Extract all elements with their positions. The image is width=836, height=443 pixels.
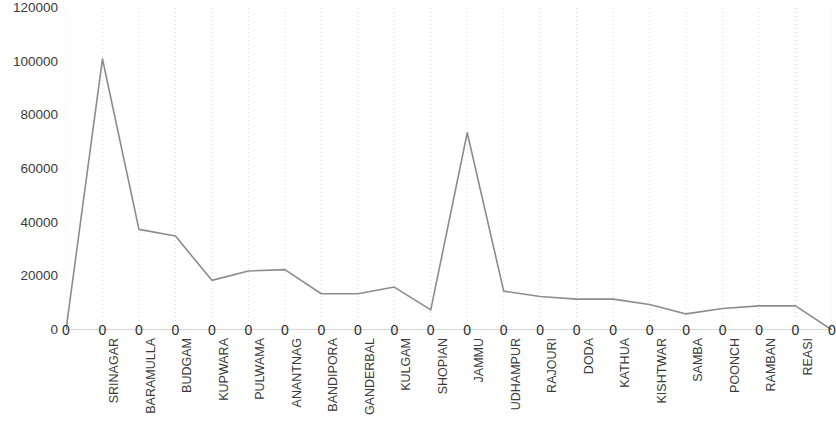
data-point-label: 0 — [427, 323, 435, 337]
data-point-label: 0 — [828, 323, 836, 337]
x-axis-tick-text: BANDIPORA — [327, 338, 340, 412]
x-axis-tick-text: RAJOURI — [546, 338, 559, 393]
data-point-label: 0 — [135, 323, 143, 337]
y-axis: 020000400006000080000100000120000 — [0, 0, 58, 443]
x-axis-tick-text: BUDGAM — [181, 338, 194, 393]
x-axis-tick-label: KUPWARA — [218, 338, 231, 401]
x-axis-tick-text: SAMBA — [692, 338, 705, 382]
x-axis-tick-label: KULGAM — [400, 338, 413, 391]
x-axis-tick-label: ANANTNAG — [291, 338, 304, 407]
data-point-label: 0 — [500, 323, 508, 337]
x-axis-tick-label: KATHUA — [619, 338, 632, 388]
data-point-label: 0 — [172, 323, 180, 337]
x-axis-tick-text: SRINAGAR — [108, 338, 121, 403]
y-axis-tick-label: 60000 — [20, 162, 58, 176]
x-axis-tick-label: GANDERBAL — [364, 338, 377, 415]
x-axis-tick-label: RAMBAN — [765, 338, 778, 391]
data-point-label: 0 — [62, 323, 70, 337]
x-axis-tick-text: KULGAM — [400, 338, 413, 391]
x-axis-tick-label: DODA — [583, 338, 596, 374]
y-axis-tick-label: 100000 — [13, 55, 58, 69]
data-point-label: 0 — [719, 323, 727, 337]
y-axis-tick-label: 80000 — [20, 108, 58, 122]
x-axis-tick-text: KISHTWAR — [656, 338, 669, 404]
data-point-label: 0 — [682, 323, 690, 337]
x-axis-tick-label: BARAMULLA — [145, 338, 158, 414]
x-axis-tick-label: REASI — [802, 338, 815, 376]
x-axis-tick-text: DODA — [583, 338, 596, 374]
x-axis-tick-text: KATHUA — [619, 338, 632, 388]
data-point-label: 0 — [646, 323, 654, 337]
data-point-label: 0 — [208, 323, 216, 337]
x-axis-tick-label: RAJOURI — [546, 338, 559, 393]
x-axis-tick-text: POONCH — [729, 338, 742, 393]
data-point-label: 0 — [463, 323, 471, 337]
x-axis: SRINAGARBARAMULLABUDGAMKUPWARAPULWAMAANA… — [66, 338, 832, 443]
x-axis-tick-text: GANDERBAL — [364, 338, 377, 415]
data-point-label: 0 — [536, 323, 544, 337]
x-axis-tick-text: UDHAMPUR — [510, 338, 523, 410]
x-axis-tick-label: SRINAGAR — [108, 338, 121, 403]
data-point-label: 0 — [755, 323, 763, 337]
data-point-label: 0 — [281, 323, 289, 337]
data-point-label: 0 — [573, 323, 581, 337]
x-axis-tick-text: RAMBAN — [765, 338, 778, 391]
data-point-label: 0 — [244, 323, 252, 337]
data-point-label: 0 — [317, 323, 325, 337]
data-point-label: 0 — [354, 323, 362, 337]
x-axis-tick-label: BANDIPORA — [327, 338, 340, 412]
x-axis-tick-text: JAMMU — [473, 338, 486, 382]
y-axis-tick-label: 20000 — [20, 269, 58, 283]
y-axis-tick-label: 40000 — [20, 216, 58, 230]
x-axis-tick-label: POONCH — [729, 338, 742, 393]
x-axis-tick-label: KISHTWAR — [656, 338, 669, 404]
x-axis-tick-text: PULWAMA — [254, 338, 267, 400]
x-axis-tick-label: SAMBA — [692, 338, 705, 382]
x-axis-tick-label: PULWAMA — [254, 338, 267, 400]
x-axis-tick-label: JAMMU — [473, 338, 486, 382]
x-axis-tick-label: BUDGAM — [181, 338, 194, 393]
x-axis-tick-text: SHOPIAN — [437, 338, 450, 394]
x-axis-tick-label: SHOPIAN — [437, 338, 450, 394]
x-axis-tick-label: UDHAMPUR — [510, 338, 523, 410]
data-point-label: 0 — [792, 323, 800, 337]
x-axis-tick-text: KUPWARA — [218, 338, 231, 401]
y-axis-tick-label: 120000 — [13, 1, 58, 15]
data-point-label: 0 — [609, 323, 617, 337]
y-axis-tick-label: 0 — [50, 323, 58, 337]
data-point-label: 0 — [390, 323, 398, 337]
data-point-label: 0 — [99, 323, 107, 337]
x-axis-tick-text: BARAMULLA — [145, 338, 158, 414]
x-axis-tick-text: REASI — [802, 338, 815, 376]
x-axis-tick-text: ANANTNAG — [291, 338, 304, 407]
